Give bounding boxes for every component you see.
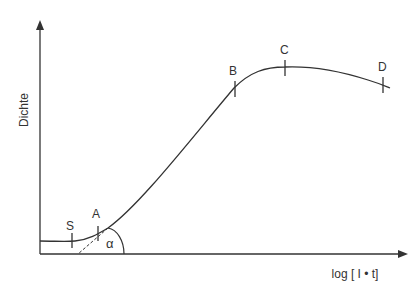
alpha-label: α: [106, 236, 114, 251]
x-axis-label: log [ I • t]: [332, 267, 379, 281]
point-label-d: D: [378, 60, 387, 74]
tangent-dashed-line: [78, 228, 108, 254]
point-label-a: A: [92, 207, 100, 221]
characteristic-curve-diagram: S A B C D α Dichte log [ I • t]: [0, 0, 413, 294]
x-axis-arrow-icon: [398, 250, 408, 258]
point-label-s: S: [66, 219, 74, 233]
y-axis-label: Dichte: [17, 93, 31, 127]
point-label-b: B: [229, 64, 237, 78]
y-axis-arrow-icon: [36, 20, 44, 30]
point-label-c: C: [280, 43, 289, 57]
